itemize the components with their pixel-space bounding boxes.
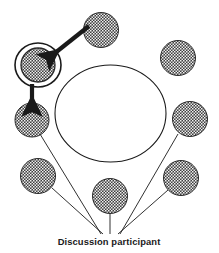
participant-bottom bbox=[93, 179, 128, 214]
participant-top-right bbox=[161, 41, 196, 76]
seating-arrangement-diagram: Discussion participant bbox=[0, 0, 219, 253]
participant-left bbox=[15, 103, 49, 137]
participant-lower-right bbox=[164, 161, 199, 196]
participant-lower-left bbox=[21, 159, 56, 194]
participant-highlighted bbox=[21, 48, 55, 82]
participant-right bbox=[173, 102, 208, 137]
diagram-canvas: Discussion participant bbox=[0, 0, 219, 253]
caption-discussion-participant: Discussion participant bbox=[58, 236, 161, 247]
participant-top bbox=[84, 13, 119, 48]
